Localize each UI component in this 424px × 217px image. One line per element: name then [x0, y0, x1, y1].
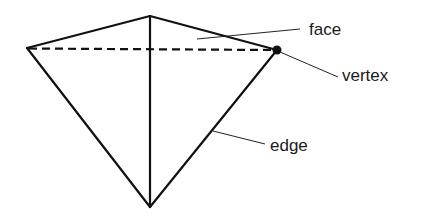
face-label: face [309, 20, 341, 39]
vertex-label: vertex [342, 66, 389, 85]
edge-left-bottom [27, 48, 150, 207]
edge-right-bottom [150, 50, 277, 207]
vertex-leader-line [280, 52, 338, 77]
edge-leader-line [213, 131, 265, 144]
polyhedron-diagram: face vertex edge [0, 0, 424, 217]
face-leader-line [197, 29, 300, 39]
edge-label: edge [270, 136, 308, 155]
hidden-edge-dashed [29, 49, 272, 51]
edge-top-left [27, 16, 150, 48]
vertex-dot [273, 46, 282, 55]
